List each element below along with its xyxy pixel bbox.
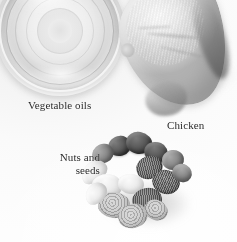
bowl-gloss-lower — [24, 62, 99, 88]
label-vegetable-oils: Vegetable oils — [28, 99, 91, 112]
food-sources-figure: Vegetable oils Chicken Nuts and seeds — [0, 0, 237, 242]
chicken-tip-shade — [141, 77, 191, 121]
bowl-gloss-upper — [16, 0, 89, 23]
label-chicken: Chicken — [167, 119, 204, 132]
label-nuts-and-seeds: Nuts and seeds — [38, 151, 100, 176]
